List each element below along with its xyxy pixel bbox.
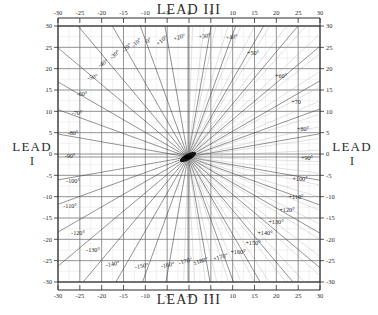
y-tick-label-right: 15 bbox=[326, 86, 333, 93]
y-tick-label-left: -30 bbox=[43, 278, 52, 285]
ray-degree-label: -60° bbox=[77, 90, 88, 97]
x-tick-label-top: -5 bbox=[164, 9, 169, 16]
ray-degree-label: -10° bbox=[130, 36, 143, 49]
y-tick-label-right: 30 bbox=[326, 22, 333, 29]
y-tick-label-left: 0 bbox=[49, 150, 52, 157]
y-tick-label-right: -30 bbox=[326, 278, 335, 285]
ray-degree-label: -30° bbox=[108, 48, 121, 61]
ray-degree-label: -170° bbox=[178, 255, 194, 266]
ray-degree-label: -140° bbox=[105, 259, 120, 268]
x-tick-label-top: 0 bbox=[187, 9, 190, 16]
x-tick-label-top: 20 bbox=[273, 9, 280, 16]
radial-ray bbox=[58, 48, 188, 157]
x-tick-label-top: -10 bbox=[141, 9, 150, 16]
y-tick-label-left: -25 bbox=[43, 257, 52, 264]
x-tick-label-top: -20 bbox=[97, 9, 106, 16]
y-tick-label-right: 10 bbox=[326, 108, 333, 115]
x-tick-label-top: 10 bbox=[229, 9, 236, 16]
y-tick-label-right: 5 bbox=[326, 129, 329, 136]
radial-ray bbox=[58, 157, 188, 266]
ray-degree-label: +100° bbox=[292, 175, 308, 182]
y-tick-label-left: 30 bbox=[46, 22, 53, 29]
ray-degree-label: +20° bbox=[172, 31, 186, 42]
chart-title-bottom: LEAD III bbox=[0, 292, 378, 308]
ray-degree-label: -120° bbox=[71, 229, 85, 236]
ray-degree-label: -40° bbox=[96, 57, 109, 69]
ray-degree-label: +60° bbox=[275, 72, 288, 79]
y-tick-label-right: 0 bbox=[326, 150, 329, 157]
nomogram-sheet: LEAD III LEAD I LEAD I -30-25-20-15-10-5… bbox=[0, 0, 378, 315]
ray-degree-label: +70 bbox=[291, 98, 301, 105]
ray-degree-label: +90° bbox=[301, 154, 314, 161]
ray-degree-label: +120° bbox=[279, 206, 295, 213]
ray-degree-label: +160° bbox=[230, 248, 246, 255]
y-tick-label-left: -5 bbox=[47, 172, 52, 179]
radial-ray bbox=[188, 26, 298, 157]
y-tick-label-left: 10 bbox=[46, 108, 53, 115]
ray-degree-label: -50° bbox=[87, 72, 99, 81]
y-tick-label-right: -25 bbox=[326, 257, 335, 264]
ray-degree-label: +80° bbox=[297, 125, 310, 132]
y-tick-label-left: -20 bbox=[43, 236, 52, 243]
y-tick-label-left: 25 bbox=[46, 44, 53, 51]
y-tick-label-right: -15 bbox=[326, 214, 335, 221]
ray-degree-label: ±180° bbox=[192, 255, 209, 266]
radial-ray bbox=[188, 157, 320, 268]
y-tick-label-left: 5 bbox=[49, 129, 52, 136]
ray-degree-label: +110° bbox=[288, 193, 304, 200]
y-tick-label-left: 20 bbox=[46, 65, 53, 72]
x-tick-label-top: -15 bbox=[119, 9, 128, 16]
ray-degree-label: +150° bbox=[245, 239, 261, 246]
x-tick-label-top: -30 bbox=[54, 9, 63, 16]
y-tick-label-left: 15 bbox=[46, 86, 53, 93]
y-tick-label-right: -5 bbox=[326, 172, 331, 179]
x-tick-label-top: 5 bbox=[209, 9, 212, 16]
x-tick-label-top: 25 bbox=[295, 9, 302, 16]
y-tick-label-left: -10 bbox=[43, 193, 52, 200]
y-tick-label-right: -20 bbox=[326, 236, 335, 243]
ray-degree-label: -160° bbox=[160, 260, 175, 269]
ray-degree-label: -130° bbox=[86, 246, 100, 253]
ray-degree-label: +130° bbox=[268, 218, 284, 225]
nomogram-plot: -30-25-20-15-10-5051015202530-30-25-20-1… bbox=[0, 0, 378, 315]
ray-degree-label: -70° bbox=[72, 109, 83, 116]
y-tick-label-left: -15 bbox=[43, 214, 52, 221]
ray-degree-label: +140° bbox=[257, 229, 273, 236]
ray-degree-label: +30° bbox=[198, 31, 212, 40]
x-tick-label-top: -25 bbox=[75, 9, 84, 16]
ray-degree-label: -90° bbox=[65, 152, 76, 159]
ray-degree-label: -110° bbox=[63, 202, 77, 209]
y-tick-label-right: -10 bbox=[326, 193, 335, 200]
y-tick-label-right: 25 bbox=[326, 44, 333, 51]
x-tick-label-top: 30 bbox=[317, 9, 324, 16]
ray-degree-label: -100° bbox=[66, 177, 80, 184]
ray-degree-label: -80° bbox=[68, 129, 79, 136]
ray-degree-label: +40° bbox=[225, 32, 239, 41]
x-tick-label-top: 15 bbox=[251, 9, 258, 16]
ray-degree-label: +50° bbox=[247, 49, 260, 56]
y-tick-label-right: 20 bbox=[326, 65, 333, 72]
